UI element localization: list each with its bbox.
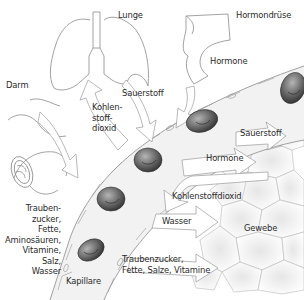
label-naehrstoffe-left: Trauben- zucker, Fette, Aminosäuren, Vit… <box>5 203 61 277</box>
label-hormondruese: Hormondrüse <box>236 10 291 21</box>
label-kohlenstoffdioxid-left: Kohlen- stoff- dioxid <box>92 102 122 134</box>
label-naehrstoffe-right: Traubenzucker, Fette, Salze, Vitamine <box>122 254 210 275</box>
gland-icon <box>183 14 230 84</box>
label-kapillare: Kapillare <box>66 276 101 287</box>
label-hormone-top: Hormone <box>210 56 247 67</box>
label-lunge: Lunge <box>118 10 143 21</box>
label-hormone-right: Hormone <box>206 153 243 164</box>
label-kohlenstoffdioxid-right: Kohlenstoffdioxid <box>172 191 242 202</box>
label-gewebe: Gewebe <box>244 223 277 234</box>
label-sauerstoff-top: Sauerstoff <box>122 88 164 99</box>
label-sauerstoff-right: Sauerstoff <box>240 128 282 139</box>
label-wasser: Wasser <box>162 216 191 227</box>
lung-icon <box>50 12 148 90</box>
label-darm: Darm <box>6 80 28 91</box>
